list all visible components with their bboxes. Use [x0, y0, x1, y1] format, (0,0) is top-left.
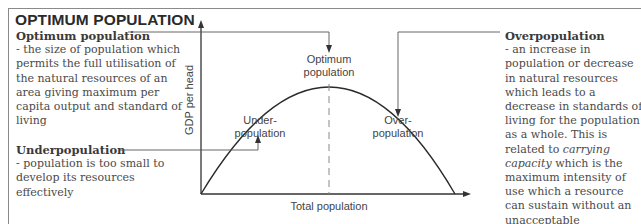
over-label-2: population	[373, 127, 424, 139]
x-axis-label: Total population	[290, 200, 367, 212]
underpopulation-connector	[120, 139, 258, 150]
optimum-label-1: Optimum	[307, 53, 352, 65]
optimum-label-2: population	[304, 66, 355, 78]
y-axis-label: GDP per head	[183, 65, 195, 135]
optimum-connector	[128, 32, 329, 49]
under-label-1: Under-	[243, 114, 277, 126]
gdp-curve	[201, 87, 455, 194]
overpopulation-connector	[398, 32, 500, 113]
over-label-1: Over-	[384, 114, 412, 126]
under-label-2: population	[235, 127, 286, 139]
population-chart: Optimum population Under- population Ove…	[0, 0, 641, 224]
